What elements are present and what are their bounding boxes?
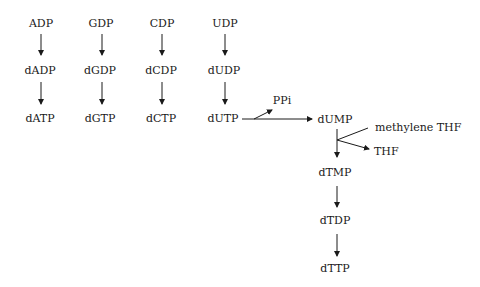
node-ppi: PPi	[273, 95, 291, 106]
node-dtdp: dTDP	[320, 215, 351, 226]
node-dcdp: dCDP	[145, 65, 177, 76]
node-dgdp: dGDP	[84, 65, 116, 76]
node-datp: dATP	[25, 113, 54, 124]
node-dtmp: dTMP	[318, 167, 351, 178]
arrow-thf	[337, 140, 369, 149]
node-dadp: dADP	[24, 65, 55, 76]
node-thf: THF	[374, 146, 399, 157]
node-adp: ADP	[29, 18, 53, 29]
node-dudp: dUDP	[208, 65, 241, 76]
node-gdp: GDP	[88, 18, 113, 29]
line-methylene-thf	[337, 128, 368, 140]
pathway-arrows	[0, 0, 480, 287]
node-dutp: dUTP	[207, 113, 238, 124]
node-udp: UDP	[212, 18, 238, 29]
node-dctp: dCTP	[146, 113, 176, 124]
node-methylene-thf: methylene THF	[375, 122, 461, 133]
node-cdp: CDP	[150, 18, 175, 29]
node-dgtp: dGTP	[85, 113, 116, 124]
node-dump: dUMP	[318, 114, 353, 125]
node-dttp: dTTP	[320, 263, 349, 274]
arrow-ppi	[254, 110, 272, 119]
